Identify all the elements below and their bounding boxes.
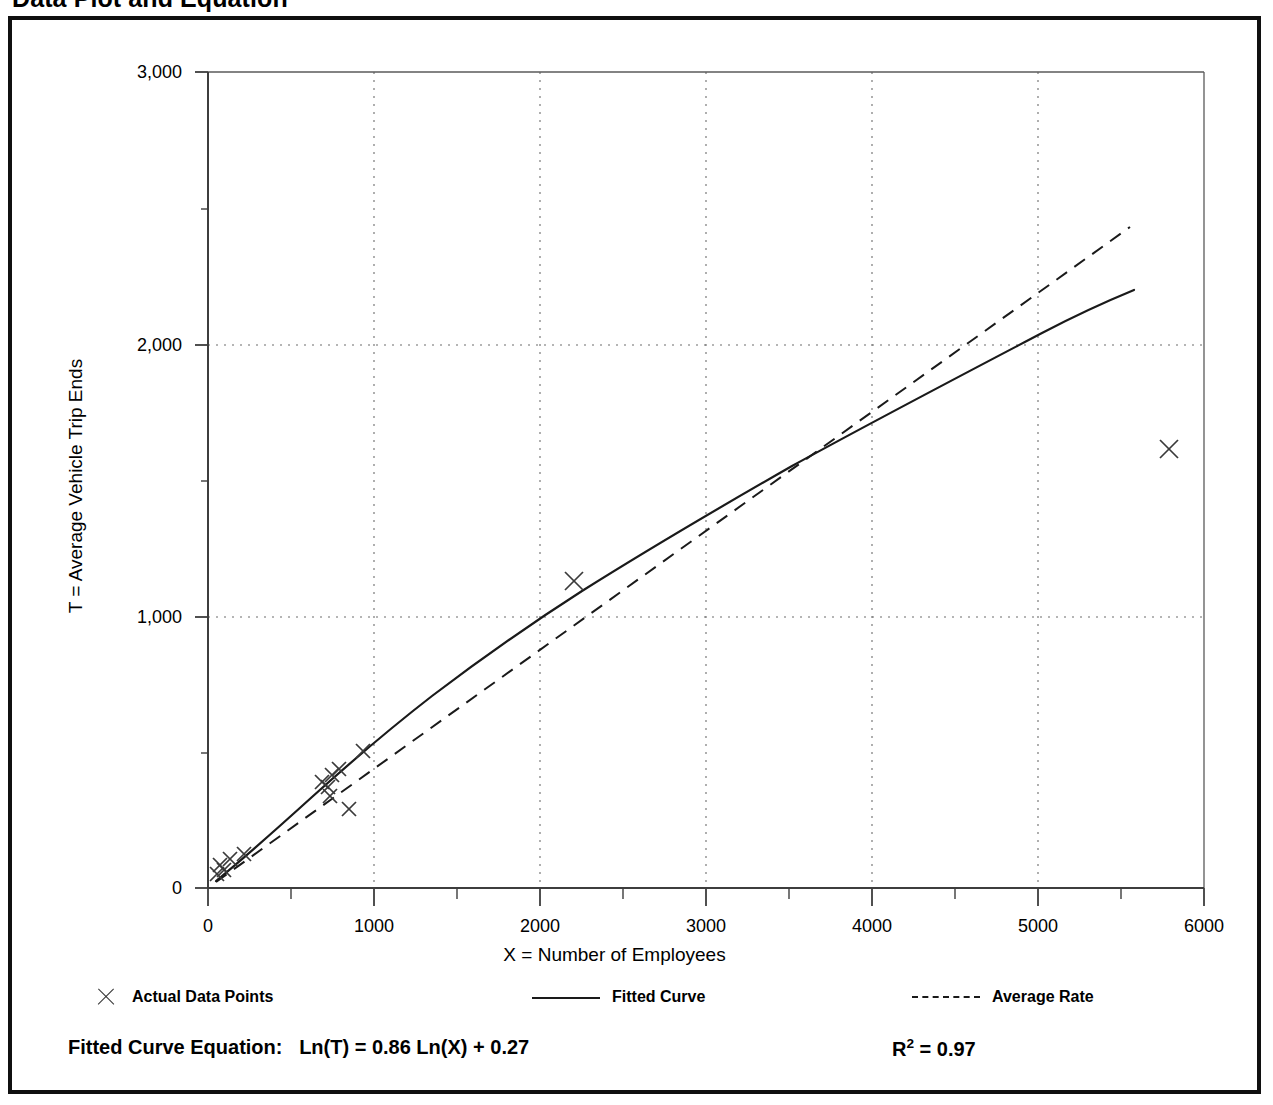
y-tick-label-3000: 3,000 <box>72 62 182 83</box>
r-squared-symbol: R <box>892 1038 906 1060</box>
fitted-curve-equation: Fitted Curve Equation: Ln(T) = 0.86 Ln(X… <box>68 1036 529 1059</box>
equation-footer: Fitted Curve Equation: Ln(T) = 0.86 Ln(X… <box>12 1036 1257 1082</box>
x-marker-icon <box>94 988 120 1006</box>
chart-legend: Actual Data Points Fitted Curve Average … <box>12 988 1257 1024</box>
legend-label-average-rate: Average Rate <box>992 988 1094 1006</box>
page-title: Data Plot and Equation <box>12 0 288 13</box>
x-tick-label-0: 0 <box>203 916 213 937</box>
chart-area: 3,000 2,000 1,000 0 0 1000 2000 3000 400… <box>12 20 1257 1090</box>
data-point <box>1160 440 1178 458</box>
fitted-curve-line <box>216 290 1134 881</box>
figure-frame: 3,000 2,000 1,000 0 0 1000 2000 3000 400… <box>8 16 1261 1094</box>
scatter-plot-canvas <box>12 20 1257 930</box>
data-point <box>342 802 356 816</box>
fitted-curve-equation-expression: Ln(T) = 0.86 Ln(X) + 0.27 <box>299 1036 529 1058</box>
legend-label-fitted-curve: Fitted Curve <box>612 988 705 1006</box>
y-tick-label-1000: 1,000 <box>72 607 182 628</box>
y-axis-major-ticks <box>195 72 208 888</box>
y-axis-title: T = Average Vehicle Trip Ends <box>65 226 87 746</box>
r-squared-value: R2 = 0.97 <box>892 1036 976 1061</box>
y-tick-label-2000: 2,000 <box>72 335 182 356</box>
x-tick-label-4000: 4000 <box>852 916 892 937</box>
x-axis-major-ticks <box>208 888 1204 906</box>
data-point-markers <box>210 440 1178 881</box>
x-tick-label-5000: 5000 <box>1018 916 1058 937</box>
y-tick-label-0: 0 <box>72 878 182 899</box>
data-point <box>565 572 583 590</box>
dashed-line-icon <box>912 988 980 1006</box>
x-tick-label-2000: 2000 <box>520 916 560 937</box>
fitted-curve-equation-prefix: Fitted Curve Equation: <box>68 1036 282 1058</box>
x-tick-label-3000: 3000 <box>686 916 726 937</box>
legend-entry-actual-data-points: Actual Data Points <box>94 988 273 1006</box>
x-tick-label-6000: 6000 <box>1184 916 1224 937</box>
x-tick-label-1000: 1000 <box>354 916 394 937</box>
data-point <box>356 744 370 758</box>
vertical-gridlines <box>374 72 1038 888</box>
legend-entry-fitted-curve: Fitted Curve <box>532 988 705 1006</box>
r-squared-exponent: 2 <box>906 1036 914 1051</box>
legend-label-actual-data-points: Actual Data Points <box>132 988 273 1006</box>
legend-entry-average-rate: Average Rate <box>912 988 1094 1006</box>
r-squared-number: = 0.97 <box>920 1038 976 1060</box>
solid-line-icon <box>532 988 600 1006</box>
y-axis-minor-ticks <box>201 209 208 753</box>
average-rate-line <box>216 227 1130 882</box>
x-axis-title: X = Number of Employees <box>12 944 1217 966</box>
